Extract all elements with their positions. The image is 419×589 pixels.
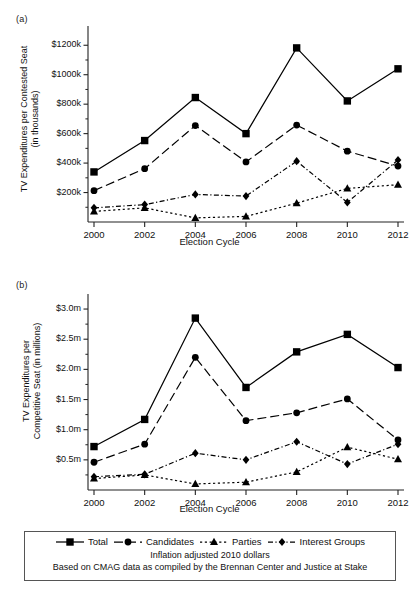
legend-item-parties: Parties	[199, 536, 262, 548]
legend-entries: TotalCandidatesPartiesInterest Groups	[25, 532, 395, 549]
y-tick-label: $400k	[56, 157, 81, 167]
panel-a-x-axis-title: Election Cycle	[0, 236, 419, 247]
legend-marker-triangle-icon	[199, 536, 229, 548]
legend-item-candidates: Candidates	[113, 536, 194, 548]
panel-a-y-axis-title: TV Expenditures per Contested Seat (in t…	[19, 34, 41, 204]
y-tick-label: $200k	[56, 187, 81, 197]
y-tick-label: $600k	[56, 128, 81, 138]
y-tick-label: $800k	[56, 98, 81, 108]
panel-b-x-axis-title: Election Cycle	[0, 503, 419, 514]
legend-marker-diamond-icon	[267, 536, 297, 548]
panel-b-y-axis-title-line2: Competitive Seat (in millions)	[32, 291, 43, 471]
panel-a-tag: (a)	[16, 14, 28, 24]
y-tick-label: $2.0m	[56, 363, 81, 373]
legend-label: Candidates	[146, 536, 194, 547]
legend-marker-circle-icon	[113, 536, 143, 548]
figure-root: (a) TV Expenditures per Contested Seat (…	[0, 0, 419, 589]
legend-marker-square-icon	[55, 536, 85, 548]
legend-label: Interest Groups	[300, 536, 365, 547]
legend-item-interest-groups: Interest Groups	[267, 536, 365, 548]
y-tick-label: $1.0m	[56, 424, 81, 434]
y-tick-label: $3.0m	[56, 303, 81, 313]
y-tick-label: $2.5m	[56, 333, 81, 343]
panel-a-y-axis-title-line2: (in thousands)	[30, 34, 41, 204]
legend-item-total: Total	[55, 536, 108, 548]
y-tick-label: $0.5m	[56, 454, 81, 464]
y-tick-label: $1000k	[51, 69, 81, 79]
y-tick-label: $1200k	[51, 39, 81, 49]
note-line-2: Based on CMAG data as compiled by the Br…	[25, 561, 395, 573]
panel-b: (b) TV Expenditures per Competitive Seat…	[0, 258, 419, 523]
note-line-1: Inflation adjusted 2010 dollars	[25, 549, 395, 561]
legend-box: TotalCandidatesPartiesInterest Groups In…	[24, 531, 396, 581]
panel-b-tag: (b)	[16, 280, 28, 290]
panel-b-plot	[0, 258, 419, 523]
legend-label: Parties	[232, 536, 262, 547]
panel-b-y-axis-title: TV Expenditures per Competitive Seat (in…	[21, 291, 43, 471]
legend-label: Total	[88, 536, 108, 547]
y-tick-label: $1.5m	[56, 394, 81, 404]
panel-a-y-axis-title-line1: TV Expenditures per Contested Seat	[19, 34, 30, 204]
panel-a: (a) TV Expenditures per Contested Seat (…	[0, 0, 419, 255]
panel-b-y-axis-title-line1: TV Expenditures per	[21, 291, 32, 471]
